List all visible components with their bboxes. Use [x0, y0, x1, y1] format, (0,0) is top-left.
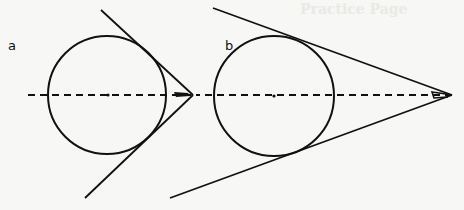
panel-a: a [8, 10, 200, 198]
center-dot-a [106, 93, 109, 96]
panel-label-b: b [225, 38, 233, 53]
center-dot-b [272, 94, 275, 97]
tangent-lower-a [85, 95, 193, 198]
panel-label-a: a [8, 38, 16, 53]
tangent-upper-a [101, 10, 193, 95]
optics-diagram: Practice Page a b [0, 0, 464, 210]
tangent-lower-b [170, 95, 452, 198]
fish-icon-a [174, 92, 190, 97]
ghost-text: Practice Page [300, 1, 408, 17]
panel-b: b [170, 8, 455, 198]
